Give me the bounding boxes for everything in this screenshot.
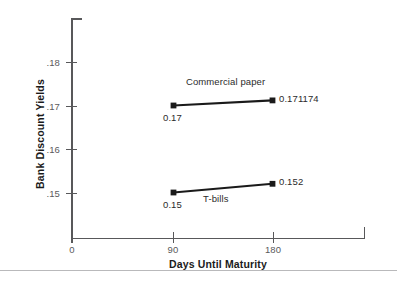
series-label-commercial-paper: Commercial paper xyxy=(186,76,265,87)
marker-tbills-180 xyxy=(270,181,276,187)
point-label-tbills-end: 0.152 xyxy=(279,176,303,187)
plot-area xyxy=(0,0,397,283)
series-line-commercial-paper xyxy=(174,100,273,105)
marker-commercial-paper-90 xyxy=(171,103,177,109)
figure-bottom-rule xyxy=(0,270,397,271)
point-label-commercial-paper-start: 0.17 xyxy=(163,112,182,123)
point-label-tbills-start: 0.15 xyxy=(163,199,182,210)
series-line-tbills xyxy=(174,184,273,193)
series-commercial-paper xyxy=(171,98,276,109)
point-label-commercial-paper-end: 0.171174 xyxy=(279,93,319,104)
chart-figure: .18 .17 .16 .15 0 90 180 Bank Discount Y… xyxy=(0,0,397,283)
marker-tbills-90 xyxy=(171,190,177,196)
series-label-tbills: T-bills xyxy=(203,193,229,204)
marker-commercial-paper-180 xyxy=(270,98,276,104)
